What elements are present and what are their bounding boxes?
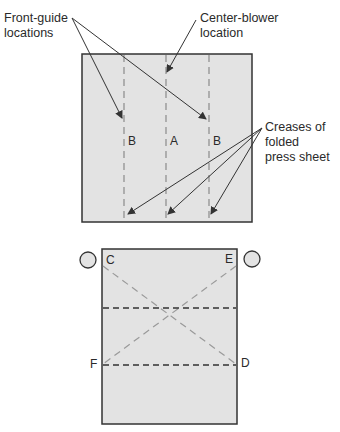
corner-label-e: E [225, 252, 233, 266]
label-b-left: B [128, 134, 136, 148]
press-sheet-diagram: B A B Front-guide locations Center-blowe… [0, 0, 340, 432]
creases-label-line1: Creases of [265, 120, 326, 134]
label-a: A [170, 134, 178, 148]
top-sheet: B A B [82, 54, 252, 222]
front-guide-label-line1: Front-guide [4, 11, 68, 25]
corner-label-f: F [90, 357, 97, 371]
creases-label-line3: press sheet [265, 150, 330, 164]
center-blower-label-line1: Center-blower [200, 11, 279, 25]
left-guide-circle [80, 252, 96, 268]
corner-label-d: D [241, 356, 250, 370]
center-blower-label-line2: location [200, 26, 243, 40]
front-guide-label-line2: locations [4, 26, 53, 40]
right-guide-circle [244, 251, 260, 267]
bottom-sheet: C E F D [80, 249, 260, 424]
label-b-right: B [213, 134, 221, 148]
corner-label-c: C [106, 253, 115, 267]
creases-label-line2: folded [265, 135, 299, 149]
